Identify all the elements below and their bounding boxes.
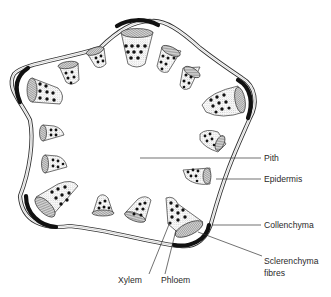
label-xylem: Xylem [118, 275, 142, 285]
stem-cross-section-diagram: Pith Epidermis Collenchyma Sclerenchyma … [0, 0, 331, 297]
vascular-bundle [40, 125, 65, 141]
vascular-bundle [180, 64, 202, 89]
label-collenchyma: Collenchyma [264, 220, 314, 230]
vascular-bundle [92, 195, 114, 216]
sclerenchyma-patch-left [17, 68, 28, 102]
vascular-bundle [202, 86, 247, 116]
leader-sclerenchyma [198, 232, 262, 256]
leader-phloem [165, 230, 176, 274]
label-epidermis: Epidermis [264, 174, 302, 184]
label-pith: Pith [264, 153, 279, 163]
vascular-bundle-labelled [166, 197, 205, 241]
labels: Pith Epidermis Collenchyma Sclerenchyma … [118, 153, 319, 285]
vascular-bundle [123, 197, 151, 225]
vascular-bundle [42, 155, 68, 173]
vascular-bundle [85, 45, 106, 68]
vascular-bundle [157, 43, 182, 72]
vascular-bundle [32, 181, 78, 220]
vascular-bundle [58, 60, 79, 84]
label-phloem: Phloem [161, 275, 190, 285]
label-sclerenchyma-line1: Sclerenchyma [264, 256, 319, 266]
vascular-bundle [200, 130, 227, 152]
label-sclerenchyma-line2: fibres [264, 268, 285, 278]
vascular-bundle [27, 78, 63, 104]
vascular-bundle [183, 168, 211, 184]
vascular-bundle [121, 29, 153, 68]
